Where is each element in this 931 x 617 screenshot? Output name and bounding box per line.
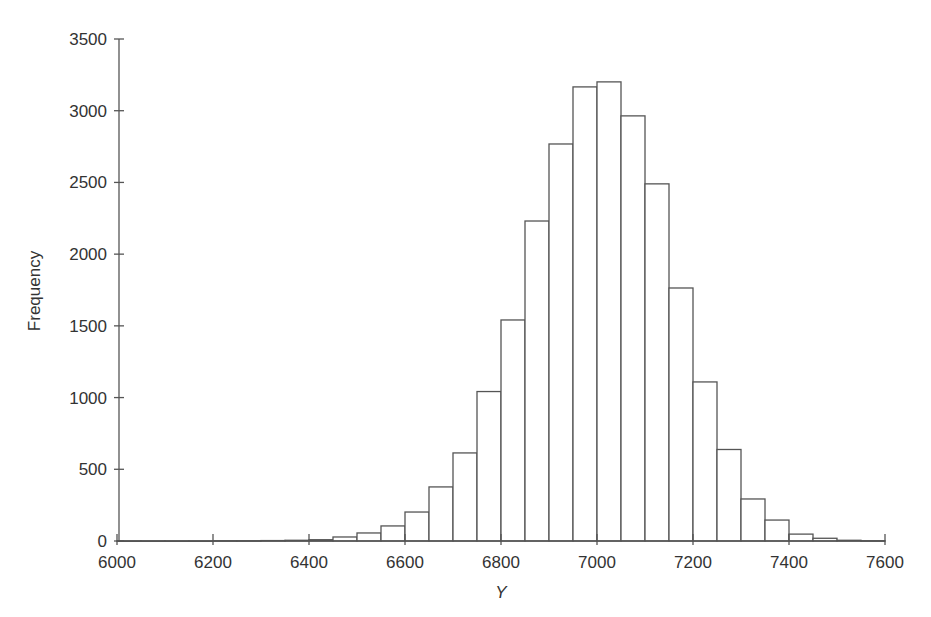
histogram-bar [453, 453, 477, 541]
histogram-chart: 0500100015002000250030003500 60006200640… [0, 0, 931, 617]
y-tick-label: 3000 [69, 102, 107, 121]
histogram-bar [429, 487, 453, 541]
histogram-bar [357, 533, 381, 541]
x-axis-title: Y [495, 583, 508, 602]
x-tick-label: 7400 [770, 553, 808, 572]
x-tick-label: 6000 [98, 553, 136, 572]
y-tick-label: 0 [98, 532, 107, 551]
y-tick-label: 3500 [69, 30, 107, 49]
x-tick-label: 7600 [866, 553, 904, 572]
histogram-bar [741, 499, 765, 541]
histogram-bar [381, 526, 405, 541]
x-tick-label: 6200 [194, 553, 232, 572]
histogram-bars [117, 82, 885, 541]
y-tick-label: 2500 [69, 173, 107, 192]
histogram-bar [765, 520, 789, 541]
histogram-bar [717, 449, 741, 541]
y-axis-title: Frequency [25, 250, 44, 331]
x-tick-label: 6800 [482, 553, 520, 572]
histogram-bar [573, 87, 597, 541]
y-tick-label: 500 [79, 460, 107, 479]
histogram-bar [693, 382, 717, 541]
histogram-bar [501, 320, 525, 541]
y-axis: 0500100015002000250030003500 [69, 30, 124, 551]
histogram-bar [645, 184, 669, 541]
y-tick-label: 1500 [69, 317, 107, 336]
histogram-bar [477, 392, 501, 541]
histogram-bar [549, 144, 573, 541]
histogram-bar [621, 116, 645, 541]
x-tick-label: 6400 [290, 553, 328, 572]
x-tick-label: 7000 [578, 553, 616, 572]
histogram-bar [597, 82, 621, 541]
histogram-bar [405, 512, 429, 541]
y-tick-label: 1000 [69, 389, 107, 408]
histogram-bar [669, 288, 693, 541]
x-tick-label: 7200 [674, 553, 712, 572]
y-tick-label: 2000 [69, 245, 107, 264]
x-tick-label: 6600 [386, 553, 424, 572]
histogram-bar [789, 534, 813, 541]
histogram-bar [525, 221, 549, 541]
